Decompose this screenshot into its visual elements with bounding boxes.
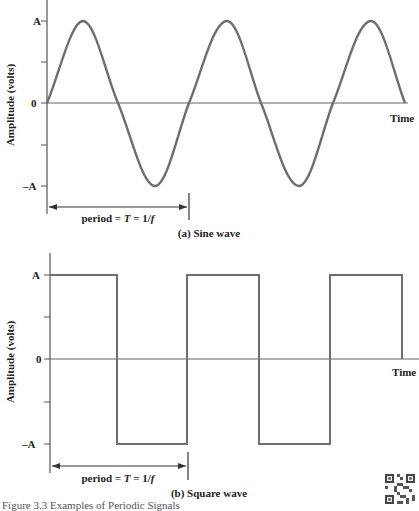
sine-tick-label-a: A xyxy=(33,15,41,27)
sine-tick-label-neg-a: –A xyxy=(22,180,37,192)
sine-period-label: period = T = 1/f xyxy=(81,212,155,224)
square-tick-label-zero: 0 xyxy=(36,353,42,365)
square-period-label: period = T = 1/f xyxy=(81,472,155,484)
sine-x-axis-label: Time xyxy=(390,112,414,124)
square-x-axis-label: Time xyxy=(392,366,416,378)
square-chart: A 0 –A Amplitude (volts) Time period = T… xyxy=(4,253,419,500)
sine-y-axis-label: Amplitude (volts) xyxy=(4,64,17,147)
square-tick-label-a: A xyxy=(32,269,40,281)
qr-code-icon xyxy=(385,474,415,504)
figure-caption: Figure 3.3 Examples of Periodic Signals xyxy=(2,499,180,511)
square-title: (b) Square wave xyxy=(171,487,247,500)
square-tick-label-neg-a: –A xyxy=(21,438,36,450)
sine-tick-label-zero: 0 xyxy=(31,97,37,109)
sine-title: (a) Sine wave xyxy=(178,227,240,240)
sine-chart: A 0 –A Amplitude (volts) Time period = T… xyxy=(4,0,414,240)
square-y-axis-label: Amplitude (volts) xyxy=(4,321,17,404)
